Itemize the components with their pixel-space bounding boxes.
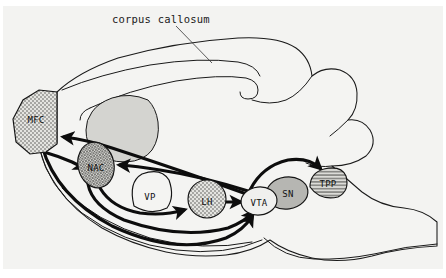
corpus-callosum-label: corpus callosum: [112, 13, 210, 25]
diagram-canvas: MFC NAC VP LH SN VTA TPP corpus callosum: [0, 0, 446, 278]
region-vp[interactable]: [132, 172, 171, 212]
brain-circuit-figure: MFC NAC VP LH SN VTA TPP corpus callosum: [0, 0, 446, 278]
region-lh[interactable]: [188, 180, 226, 218]
